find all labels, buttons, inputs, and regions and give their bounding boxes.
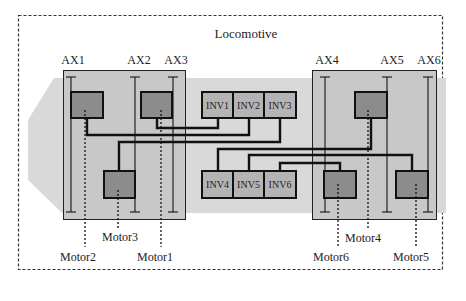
axle-label-ax5: AX5 — [380, 53, 403, 67]
motor-label-motor2: Motor2 — [60, 250, 96, 264]
motor3-box — [104, 171, 135, 198]
motor-label-motor6: Motor6 — [313, 250, 349, 264]
locomotive-title: Locomotive — [215, 26, 278, 41]
motor-label-motor5: Motor5 — [393, 250, 429, 264]
inverter-label-inv6: INV6 — [269, 179, 292, 190]
motor-label-motor4: Motor4 — [345, 231, 381, 245]
inverter-group-top: INV1 INV2 INV3 — [202, 92, 296, 118]
axle-label-ax6: AX6 — [417, 53, 440, 67]
inverter-group-bottom: INV4 INV5 INV6 — [202, 171, 296, 198]
motor2-box — [71, 92, 103, 118]
inverter-label-inv4: INV4 — [206, 179, 229, 190]
inverter-label-inv5: INV5 — [237, 179, 260, 190]
axle-label-ax1: AX1 — [61, 53, 84, 67]
motor4-box — [355, 92, 387, 118]
motor1-box — [141, 92, 172, 118]
axle-label-ax3: AX3 — [164, 53, 187, 67]
inverter-label-inv3: INV3 — [269, 100, 292, 111]
motor-label-motor1: Motor1 — [137, 250, 173, 264]
axle-label-ax4: AX4 — [315, 53, 338, 67]
axle-label-ax2: AX2 — [127, 53, 150, 67]
motor5-box — [396, 171, 428, 198]
inverter-label-inv2: INV2 — [237, 100, 260, 111]
motor-label-motor3: Motor3 — [102, 230, 138, 244]
inverter-label-inv1: INV1 — [206, 100, 229, 111]
locomotive-diagram: Locomotive AX1 AX2 AX3 AX4 AX5 AX6 — [0, 0, 466, 301]
motor6-box — [324, 171, 356, 198]
